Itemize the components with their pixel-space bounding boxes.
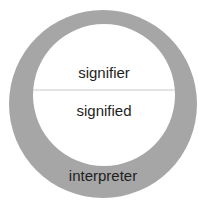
interpreter-label: interpreter (69, 167, 137, 184)
signifier-label: signifier (78, 64, 130, 81)
sign-inner-circle (33, 24, 175, 166)
signified-label: signified (76, 102, 131, 119)
semiotic-diagram: signifier signified interpreter (0, 0, 198, 205)
